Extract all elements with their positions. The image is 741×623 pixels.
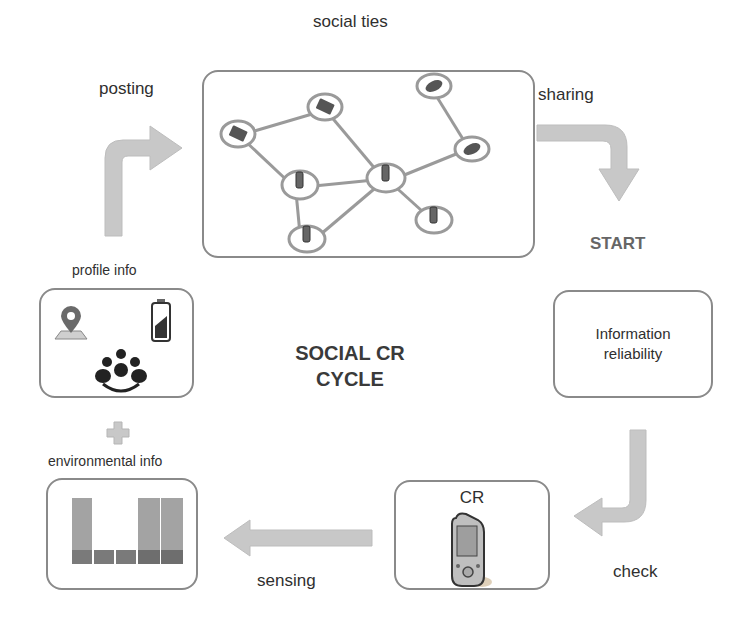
sharing-label: sharing xyxy=(538,85,594,105)
information-reliability-line1: Information xyxy=(595,324,670,344)
phone-icon xyxy=(382,165,389,181)
cr-label: CR xyxy=(396,488,548,508)
environmental-info-label: environmental info xyxy=(48,453,162,469)
cycle-title-line1: SOCIAL CR xyxy=(270,340,430,366)
sensing-label: sensing xyxy=(257,571,316,591)
profile-info-label: profile info xyxy=(72,262,137,278)
check-label: check xyxy=(613,562,657,582)
check-arrow-icon xyxy=(572,428,652,548)
phone-icon xyxy=(303,226,310,242)
phone-node xyxy=(282,171,318,199)
laptop-node xyxy=(308,94,342,120)
phone-icon xyxy=(430,207,437,223)
sensing-arrow-icon xyxy=(222,518,374,560)
phone-node xyxy=(367,164,405,192)
cycle-title: SOCIAL CR CYCLE xyxy=(270,340,430,392)
information-reliability-line2: reliability xyxy=(604,344,662,364)
cycle-title-line2: CYCLE xyxy=(270,366,430,392)
posting-arrow-icon xyxy=(100,118,185,238)
laptop-node xyxy=(221,121,255,147)
sharing-arrow-icon xyxy=(535,123,645,203)
environment-bar-chart-icon xyxy=(72,498,188,570)
phone-node xyxy=(289,226,325,252)
posting-label: posting xyxy=(99,79,154,99)
social-ties-network-box xyxy=(202,70,535,258)
phone-node xyxy=(416,207,452,233)
profile-info-box xyxy=(39,288,194,398)
information-reliability-box: Information reliability xyxy=(553,290,713,398)
environmental-info-box xyxy=(46,478,198,590)
cr-device-icon xyxy=(448,510,498,590)
car-node xyxy=(417,74,451,98)
start-label: START xyxy=(590,234,645,254)
cr-box: CR xyxy=(394,480,550,590)
social-ties-label: social ties xyxy=(313,12,388,32)
phone-icon xyxy=(296,172,303,188)
map-pin-icon xyxy=(51,305,91,345)
group-icon xyxy=(93,348,149,396)
car-node xyxy=(455,137,489,161)
social-network-graph xyxy=(204,72,537,260)
battery-icon xyxy=(149,298,173,344)
plus-icon xyxy=(104,420,132,446)
